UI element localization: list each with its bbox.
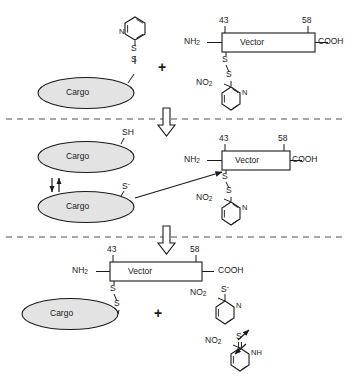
cargo-label-4: Cargo (50, 309, 73, 318)
residue-end-label-2: 58 (278, 134, 287, 143)
c-terminus-label-1: COOH (318, 37, 344, 46)
plus-operator-1: + (158, 60, 166, 74)
vector-box-3 (96, 255, 214, 281)
cargo-label-2: Cargo (66, 152, 89, 161)
vector-label-2: Vector (235, 156, 259, 165)
sulfur-label-7: S (110, 284, 116, 293)
diagram-graphics (0, 0, 350, 389)
residue-start-label-1: 43 (219, 16, 228, 25)
thiolate-label: S- (122, 181, 130, 190)
sulfur-label-4: S (226, 70, 232, 79)
plus-operator-2: + (154, 306, 162, 320)
diagram-canvas: N S S Cargo + NH2 Vector COOH 43 58 S S … (0, 0, 350, 389)
vector-label-3: Vector (128, 267, 152, 276)
vector-label-1: Vector (240, 38, 264, 47)
equilibrium-arrows-1 (52, 178, 59, 192)
nitro-label-4: NO2 (205, 336, 221, 346)
sulfur-label-8: S (114, 299, 120, 308)
nitrothiopyridine-thiolate (216, 294, 234, 324)
residue-end-label-1: 58 (302, 16, 311, 25)
thione-sulfur-label: S (236, 332, 242, 341)
amine-nh-label: NH (251, 349, 262, 357)
pyridine-n-label-3: N (242, 204, 247, 212)
nitro-label-1: NO2 (196, 78, 212, 88)
residue-start-label-3: 43 (107, 245, 116, 254)
sulfur-label-5: S (222, 172, 228, 181)
cargo-s-bond-1 (128, 74, 134, 83)
cargo-sh-bond (121, 138, 124, 144)
nitro-label-2: NO2 (196, 193, 212, 203)
thiol-label: SH (122, 128, 134, 137)
residue-end-label-3: 58 (190, 245, 199, 254)
c-terminus-label-2: COOH (292, 155, 318, 164)
pyridine-ring-1 (125, 17, 145, 40)
pyridine-n-label-1: N (119, 28, 124, 36)
n-terminus-label-3: NH2 (72, 266, 88, 276)
residue-start-label-2: 43 (219, 134, 228, 143)
nitro-label-3: NO2 (190, 288, 206, 298)
vector-box-1 (207, 26, 328, 52)
sulfur-label-1: S (131, 44, 137, 53)
cargo-thiolate-bond (121, 191, 124, 196)
flow-arrow-1 (158, 108, 175, 136)
n-terminus-label-2: NH2 (184, 155, 200, 165)
nitrothiopyridone-thione (231, 342, 249, 371)
nitropyridine-ring-1 (222, 84, 240, 110)
cargo-label-3: Cargo (66, 202, 89, 211)
sulfur-label-6: S (226, 186, 232, 195)
sulfur-label-2: S (131, 55, 137, 64)
c-terminus-label-3: COOH (218, 266, 244, 275)
thiolate-label-2: S- (221, 284, 229, 293)
flow-arrow-2 (158, 226, 175, 254)
sulfur-label-3: S (222, 55, 228, 64)
pyridine-n-label-2: N (242, 89, 247, 97)
cargo-label-1: Cargo (66, 88, 89, 97)
n-terminus-label-1: NH2 (184, 37, 200, 47)
nitropyridine-ring-2 (222, 199, 240, 225)
pyridine-n-label-4: N (236, 302, 241, 310)
